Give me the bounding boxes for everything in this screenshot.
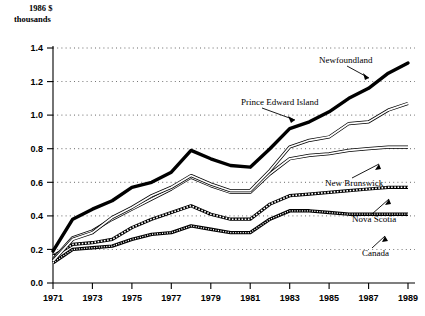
series-label-canada: Canada [362, 248, 389, 258]
y-tick-0.2: 0.2 [30, 245, 43, 255]
leader-canada [372, 236, 385, 248]
series-label-nova-scotia: Nova Scotia [352, 214, 396, 224]
x-tickmarks [53, 283, 408, 289]
y-tick-1.4: 1.4 [30, 43, 43, 53]
series-label-prince-edward-island: Prince Edward Island [241, 97, 319, 107]
y-tick-0.4: 0.4 [30, 211, 43, 221]
x-tick-1989: 1989 [398, 293, 418, 303]
arrowhead-newfoundland [363, 73, 369, 80]
line-chart: 1986 $ thousands 1.4 1.2 1.0 [0, 0, 425, 316]
x-tick-1979: 1979 [201, 293, 221, 303]
x-tick-1985: 1985 [319, 293, 339, 303]
chart-container: 1986 $ thousands 1.4 1.2 1.0 [0, 0, 425, 316]
y-tick-1.2: 1.2 [30, 77, 43, 87]
arrowhead-canada [382, 236, 388, 242]
series-layer [53, 63, 408, 263]
series-label-new-brunswick: New Brunswick [325, 178, 384, 188]
x-tick-1975: 1975 [122, 293, 142, 303]
leader-new-brunswick [352, 164, 379, 178]
x-tick-labels: 1971 1973 1975 1977 1979 1981 1983 1985 … [43, 293, 418, 303]
y-tick-0.8: 0.8 [30, 144, 43, 154]
y-tick-1.0: 1.0 [30, 110, 43, 120]
y-tickmarks [47, 48, 53, 283]
x-tick-1977: 1977 [161, 293, 181, 303]
x-tick-1983: 1983 [280, 293, 300, 303]
x-tick-1973: 1973 [82, 293, 102, 303]
y-tick-labels: 1.4 1.2 1.0 0.8 0.6 0.4 0.2 0.0 [30, 43, 43, 288]
y-tick-0.0: 0.0 [30, 278, 43, 288]
x-tick-1971: 1971 [43, 293, 63, 303]
x-tick-1981: 1981 [240, 293, 260, 303]
arrowhead-prince-edward-island [288, 116, 295, 123]
series-label-newfoundland: Newfoundland [319, 55, 373, 65]
y-tick-0.6: 0.6 [30, 178, 43, 188]
y-axis-note-line2: thousands [14, 14, 52, 24]
y-axis-note-line1: 1986 $ [29, 3, 53, 13]
x-tick-1987: 1987 [359, 293, 379, 303]
leader-nova-scotia [372, 199, 389, 214]
